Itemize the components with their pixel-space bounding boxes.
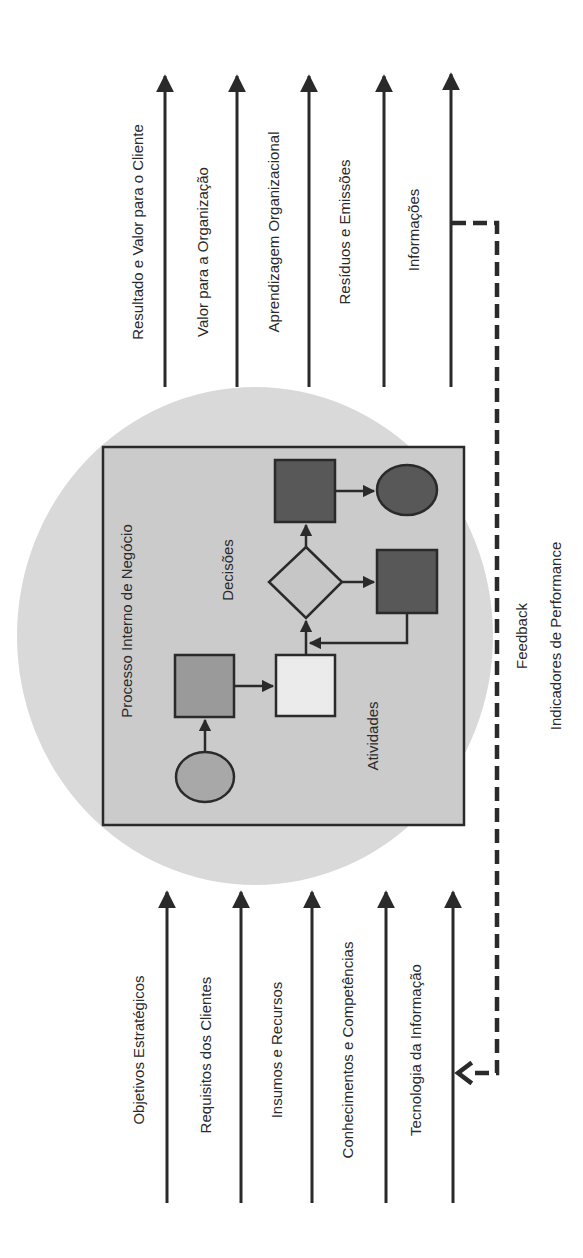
input-label-5: Tecnologia da Informação <box>407 964 424 1136</box>
activity-box-3 <box>275 460 335 522</box>
process-title: Processo Interno de Negócio <box>118 524 135 717</box>
output-labels: Resultado e Valor para o Cliente Valor p… <box>129 124 422 340</box>
end-node-circle <box>377 465 437 515</box>
input-label-3: Insumos e Recursos <box>268 982 285 1119</box>
feedback-arrowhead-icon <box>458 1064 470 1082</box>
input-label-2: Requisitos dos Clientes <box>197 977 214 1134</box>
output-label-4: Resíduos e Emissões <box>336 159 353 304</box>
decisions-label: Decisões <box>219 539 236 601</box>
start-node-circle <box>176 752 234 802</box>
output-label-1: Resultado e Valor para o Cliente <box>129 124 146 340</box>
input-label-1: Objetivos Estratégicos <box>130 975 147 1124</box>
activity-box-4 <box>377 550 437 613</box>
activity-box-2 <box>276 655 335 716</box>
feedback-label: Feedback <box>513 603 530 669</box>
input-label-4: Conhecimentos e Competências <box>339 942 356 1159</box>
output-label-3: Aprendizagem Organizacional <box>265 132 282 333</box>
activity-box-1 <box>175 655 234 717</box>
output-label-2: Valor para a Organização <box>194 167 211 337</box>
process-diagram: Resultado e Valor para o Cliente Valor p… <box>0 0 583 1258</box>
feedback-sublabel: Indicadores de Performance <box>547 542 564 730</box>
input-labels: Objetivos Estratégicos Requisitos dos Cl… <box>130 942 424 1159</box>
output-label-5: Informações <box>405 189 422 272</box>
activities-label: Atividades <box>364 701 381 770</box>
